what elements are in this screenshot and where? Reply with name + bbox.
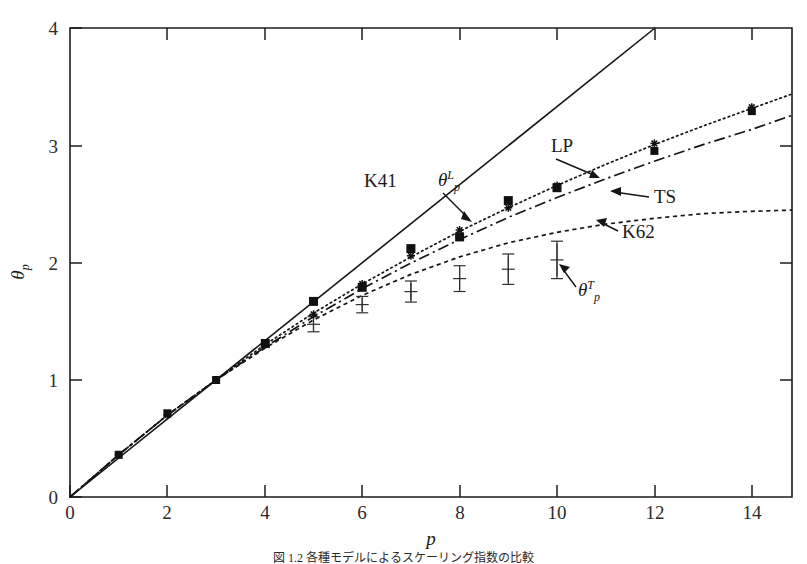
annotation-theta-p-L: θLp	[438, 168, 472, 222]
xtick-label-12: 12	[646, 502, 665, 523]
square-marker	[115, 451, 123, 459]
x-axis-title: p	[424, 528, 436, 549]
annotation-ts: TS	[610, 186, 676, 207]
series-line-k41	[70, 28, 655, 497]
series-line-lp	[70, 94, 792, 497]
square-marker	[504, 196, 513, 205]
x-axis-major-ticks	[70, 485, 752, 497]
figure-container: 0 2 4 6 8 10 12 14 0 1 2 3 4 p θp	[0, 0, 807, 564]
square-marker	[309, 297, 318, 306]
square-marker	[212, 376, 220, 384]
y-axis-right-ticks	[780, 146, 792, 380]
ytick-label-2: 2	[49, 253, 59, 274]
annotation-lp: LP	[551, 135, 600, 178]
x-axis-top-ticks	[167, 28, 752, 40]
svg-text:θTp: θTp	[578, 278, 600, 304]
annotation-ts-label: TS	[654, 186, 676, 207]
svg-text:θp: θp	[7, 264, 32, 279]
chart-plot-area: 0 2 4 6 8 10 12 14 0 1 2 3 4 p θp	[0, 0, 807, 564]
ytick-label-3: 3	[49, 136, 59, 157]
square-marker	[748, 107, 756, 115]
errorbar-point	[453, 266, 466, 292]
svg-text:θLp: θLp	[438, 168, 460, 194]
annotation-k41-label: K41	[364, 170, 397, 191]
xtick-label-14: 14	[743, 502, 763, 523]
y-axis-title-base: θ	[7, 270, 28, 279]
theta-p-L-base: θ	[438, 169, 447, 190]
errorbar-point	[356, 296, 369, 312]
annotation-k62-label: K62	[622, 221, 655, 242]
axes-frame	[70, 28, 792, 497]
theta-p-L-sub: p	[453, 180, 460, 194]
star-marker	[310, 310, 318, 318]
annotation-k62: K62	[596, 218, 655, 242]
ytick-label-1: 1	[49, 370, 59, 391]
annotation-lp-label: LP	[551, 135, 573, 156]
xtick-label-2: 2	[162, 502, 172, 523]
errorbar-point	[551, 241, 564, 278]
ytick-label-4: 4	[49, 18, 59, 39]
ytick-label-0: 0	[49, 487, 59, 508]
star-marker	[650, 139, 658, 147]
y-axis-major-ticks	[70, 28, 82, 497]
square-marker	[358, 283, 367, 292]
errorbar-point	[502, 254, 515, 284]
square-marker	[650, 147, 658, 155]
theta-p-T-sub: p	[593, 290, 600, 304]
data-series-star	[115, 103, 756, 459]
series-line-ts	[70, 115, 792, 497]
square-marker	[455, 232, 464, 241]
series-line-k62	[70, 210, 792, 497]
data-series-theta-p-T	[307, 241, 564, 332]
xtick-label-6: 6	[357, 502, 367, 523]
square-marker	[163, 409, 171, 417]
y-axis-title-sub: p	[18, 264, 32, 271]
xtick-label-10: 10	[548, 502, 567, 523]
square-marker	[261, 339, 270, 348]
xtick-label-4: 4	[260, 502, 270, 523]
figure-caption: 図 1.2 各種モデルによるスケーリング指数の比較	[0, 548, 807, 564]
xtick-label-0: 0	[65, 502, 75, 523]
xtick-label-8: 8	[455, 502, 465, 523]
errorbar-point	[404, 281, 417, 302]
y-axis-title: θp	[7, 264, 32, 279]
annotation-theta-p-T: θTp	[559, 264, 600, 304]
theta-p-T-base: θ	[578, 279, 587, 300]
square-marker	[406, 244, 415, 253]
square-marker	[553, 183, 562, 192]
